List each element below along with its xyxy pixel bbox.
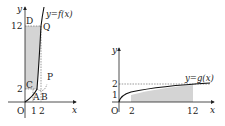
right-xtick-2: 2 [129,106,135,116]
left-origin-label: O [17,106,24,116]
left-ytick-12: 12 [11,21,22,31]
left-x-axis-label: x [72,105,77,115]
left-y-axis-label: y [16,4,23,14]
left-xtick-2: 2 [39,106,45,116]
right-y-axis-label: y [111,45,118,55]
point-p-label: P [47,72,53,82]
diagram-canvas: y x O y=f(x) 1 2 2 12 D Q C P A B y x O … [0,0,225,126]
reflection-arc-p [37,84,47,91]
point-d-label: D [26,16,33,26]
point-q-label: Q [43,22,50,32]
point-a-label: A [32,92,40,102]
right-origin-label: O [111,106,118,116]
left-graph: y x O y=f(x) 1 2 2 12 D Q C P A B [8,4,77,118]
left-ytick-2: 2 [17,84,23,94]
right-ytick-2: 2 [112,79,118,89]
right-ytick-1: 1 [112,90,118,100]
right-x-axis-label: x [210,105,215,115]
right-curve-label: y=g(x) [184,73,214,83]
right-graph: y x O y=g(x) 2 12 1 2 [111,45,215,116]
point-c-label: C [26,80,33,90]
left-curve-label: y=f(x) [45,9,73,19]
right-xtick-12: 12 [187,106,198,116]
left-xtick-1: 1 [31,106,37,116]
point-b-label: B [41,92,48,102]
